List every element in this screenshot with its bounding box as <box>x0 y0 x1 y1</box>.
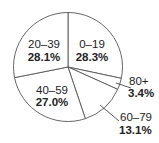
slice-label-20-39: 20–39 28.1% <box>28 38 61 63</box>
slice-category-label: 20–39 <box>28 38 60 50</box>
slice-label-0-19: 0–19 28.3% <box>76 38 109 63</box>
pie-chart: 0–19 28.3% 20–39 28.1% 40–59 27.0% 80+ 3… <box>0 0 159 143</box>
slice-category-label: 40–59 <box>36 84 68 96</box>
slice-label-80plus: 80+ 3.4% <box>128 75 154 99</box>
slice-percent-label: 28.1% <box>28 51 61 63</box>
slice-label-40-59: 40–59 27.0% <box>36 84 69 108</box>
slice-percent-label: 3.4% <box>128 87 154 99</box>
slice-category-label: 60–79 <box>120 111 152 123</box>
slice-category-label: 80+ <box>129 75 149 87</box>
slice-category-label: 0–19 <box>79 38 105 50</box>
slice-percent-label: 27.0% <box>36 96 69 108</box>
slice-percent-label: 28.3% <box>76 51 109 63</box>
slice-percent-label: 13.1% <box>119 124 152 136</box>
leader-line-60-79 <box>100 105 119 121</box>
slice-label-60-79: 60–79 13.1% <box>119 111 152 136</box>
